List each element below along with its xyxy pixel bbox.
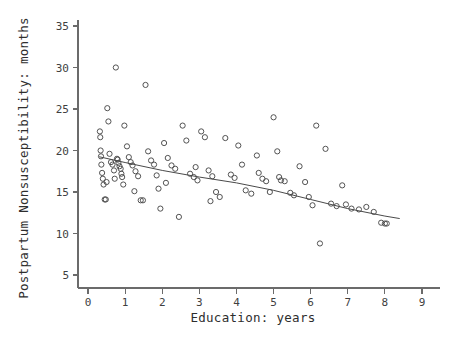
data-point-marker [202, 135, 207, 140]
plot-canvas: 5101520253035 0123456789 Education: year… [0, 0, 450, 340]
x-tick-label: 6 [307, 296, 314, 309]
fitted-trend-line [99, 157, 400, 219]
x-axis-title: Education: years [190, 310, 315, 325]
data-point-marker [260, 176, 265, 181]
data-point-marker [173, 166, 178, 171]
data-point-marker [98, 148, 103, 153]
data-point-marker [243, 188, 248, 193]
data-point-marker [98, 135, 103, 140]
data-point-marker [223, 135, 228, 140]
data-point-marker [111, 168, 116, 173]
data-point-marker [180, 123, 185, 128]
y-tick-label: 25 [56, 103, 69, 116]
data-point-marker [163, 180, 168, 185]
data-point-marker [323, 146, 328, 151]
x-tick-label: 8 [382, 296, 389, 309]
data-point-marker [282, 179, 287, 184]
data-point-marker [97, 129, 102, 134]
x-axis: 0123456789 [78, 288, 440, 309]
data-point-marker [98, 154, 103, 159]
data-point-marker [254, 153, 259, 158]
data-point-marker [232, 175, 237, 180]
x-tick-label: 5 [270, 296, 277, 309]
y-axis-title: Postpartum Nonsusceptibility: months [16, 17, 31, 299]
x-tick-label: 1 [122, 296, 129, 309]
y-tick-label: 10 [56, 228, 69, 241]
data-point-marker [100, 170, 105, 175]
data-point-marker [193, 165, 198, 170]
data-point-marker [176, 214, 181, 219]
x-tick-label: 2 [159, 296, 166, 309]
data-point-marker [239, 162, 244, 167]
data-point-marker [158, 206, 163, 211]
x-tick-label: 0 [85, 296, 92, 309]
data-point-marker [256, 170, 261, 175]
data-point-marker [151, 162, 156, 167]
data-point-marker [133, 169, 138, 174]
data-point-marker [264, 179, 269, 184]
x-tick-label: 3 [196, 296, 203, 309]
data-point-marker [206, 168, 211, 173]
x-tick-label: 9 [419, 296, 426, 309]
data-point-marker [271, 115, 276, 120]
data-point-marker [124, 144, 129, 149]
data-point-marker [303, 179, 308, 184]
data-point-marker [343, 202, 348, 207]
data-point-marker [297, 164, 302, 169]
data-point-marker [107, 151, 112, 156]
data-point-marker [275, 149, 280, 154]
data-point-marker [136, 174, 141, 179]
data-point-marker [113, 65, 118, 70]
data-point-marker [154, 173, 159, 178]
y-tick-label: 30 [56, 62, 69, 75]
scatter-plot-figure: 5101520253035 0123456789 Education: year… [0, 0, 450, 340]
y-tick-label: 20 [56, 145, 69, 158]
data-point-marker [112, 176, 117, 181]
data-point-marker [105, 106, 110, 111]
data-point-marker [156, 186, 161, 191]
data-point-marker [314, 123, 319, 128]
data-point-marker [217, 194, 222, 199]
data-point-marker [122, 123, 127, 128]
data-point-marker [310, 203, 315, 208]
data-point-marker [213, 189, 218, 194]
data-point-marker [143, 82, 148, 87]
data-point-marker [195, 178, 200, 183]
data-point-marker [317, 241, 322, 246]
data-points-layer [97, 65, 389, 246]
data-point-marker [208, 199, 213, 204]
x-tick-label: 7 [344, 296, 351, 309]
data-point-marker [249, 191, 254, 196]
y-axis: 5101520253035 [56, 20, 78, 288]
data-point-marker [165, 155, 170, 160]
data-point-marker [236, 143, 241, 148]
data-point-marker [126, 155, 131, 160]
data-point-marker [106, 119, 111, 124]
regression-line-layer [99, 157, 400, 219]
y-tick-label: 5 [62, 269, 69, 282]
data-point-marker [364, 204, 369, 209]
data-point-marker [161, 140, 166, 145]
data-point-marker [184, 138, 189, 143]
y-tick-label: 35 [56, 20, 69, 33]
data-point-marker [132, 189, 137, 194]
y-tick-label: 15 [56, 186, 69, 199]
data-point-marker [119, 171, 124, 176]
data-point-marker [199, 129, 204, 134]
data-point-marker [99, 162, 104, 167]
x-tick-label: 4 [233, 296, 240, 309]
data-point-marker [210, 174, 215, 179]
data-point-marker [121, 182, 126, 187]
data-point-marker [340, 183, 345, 188]
data-point-marker [146, 149, 151, 154]
